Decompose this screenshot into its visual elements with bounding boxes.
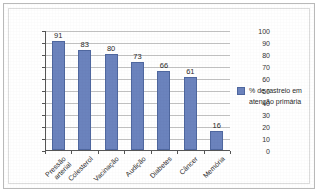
bar <box>105 54 118 150</box>
y-tick-label: 90 <box>236 40 270 47</box>
bar <box>184 77 197 150</box>
y-tick-label: 10 <box>236 136 270 143</box>
x-tick-mark <box>71 151 72 154</box>
x-tick-mark <box>124 151 125 154</box>
bar-value-label: 66 <box>160 62 168 70</box>
y-tick-label: 80 <box>236 52 270 59</box>
bar-value-label: 83 <box>80 41 88 49</box>
bar <box>78 50 91 150</box>
chart-legend: % de rastreio em atenção primária <box>237 86 320 107</box>
x-tick-mark <box>151 151 152 154</box>
bar-value-label: 80 <box>107 45 115 53</box>
y-tick-label: 60 <box>236 76 270 83</box>
legend-swatch-icon <box>237 87 245 95</box>
bar <box>210 131 223 150</box>
gridline <box>45 43 230 44</box>
y-axis-line <box>45 31 46 151</box>
y-tick-label: 30 <box>236 112 270 119</box>
y-tick-label: 20 <box>236 124 270 131</box>
bar-value-label: 61 <box>186 68 194 76</box>
chart-card-inner: 91838073666116 0102030405060708090100 Pr… <box>8 8 310 184</box>
bar <box>157 71 170 150</box>
gridline <box>45 31 230 32</box>
y-tick-label: 0 <box>236 148 270 155</box>
x-tick-mark <box>204 151 205 154</box>
plot-area: 91838073666116 <box>45 31 230 151</box>
x-tick-mark <box>45 151 46 154</box>
bar <box>131 62 144 150</box>
y-tick-label: 70 <box>236 64 270 71</box>
chart-card: 91838073666116 0102030405060708090100 Pr… <box>3 3 315 189</box>
bar <box>52 41 65 150</box>
bar-value-label: 91 <box>54 32 62 40</box>
bar-value-label: 16 <box>213 122 221 130</box>
bar-value-label: 73 <box>133 53 141 61</box>
x-tick-mark <box>230 151 231 154</box>
legend-label: % de rastreio em atenção primária <box>249 86 320 107</box>
y-tick-label: 100 <box>236 28 270 35</box>
x-axis-line <box>45 150 230 151</box>
x-tick-mark <box>177 151 178 154</box>
x-tick-mark <box>98 151 99 154</box>
